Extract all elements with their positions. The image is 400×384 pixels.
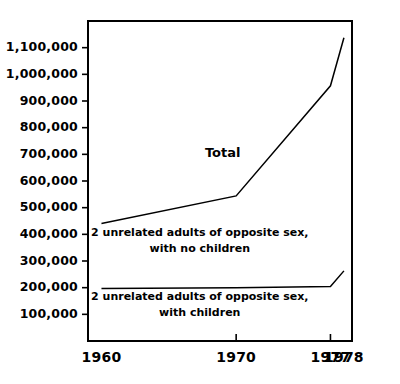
series-annotations: Total2 unrelated adults of opposite sex,…	[91, 145, 308, 319]
y-tick-label: 700,000	[20, 146, 78, 161]
y-tick-label: 1,000,000	[6, 66, 78, 81]
y-tick-label: 500,000	[20, 199, 78, 214]
annotation-with-children-line1: 2 unrelated adults of opposite sex,	[91, 290, 308, 303]
y-tick-label: 1,100,000	[6, 39, 78, 54]
x-tick-label: 1978	[324, 349, 364, 365]
y-tick-label: 100,000	[20, 306, 78, 321]
y-tick-label: 300,000	[20, 253, 78, 268]
y-tick-label: 800,000	[20, 119, 78, 134]
x-tick-label: 1960	[82, 349, 122, 365]
y-tick-label: 600,000	[20, 173, 78, 188]
annotation-with-children-line2: with children	[159, 306, 240, 319]
series-line	[101, 38, 343, 224]
y-tick-label: 200,000	[20, 279, 78, 294]
annotation-total: Total	[205, 145, 241, 160]
x-axis-tick-labels: 1960197019771978	[82, 349, 364, 365]
y-tick-label: 900,000	[20, 93, 78, 108]
series-line	[101, 271, 343, 289]
y-tick-label: 400,000	[20, 226, 78, 241]
y-axis-tick-labels: 100,000200,000300,000400,000500,000600,0…	[6, 39, 78, 321]
annotation-no-children-line2: with no children	[150, 242, 251, 255]
annotation-no-children-line1: 2 unrelated adults of opposite sex,	[91, 226, 308, 239]
x-axis-tick-marks	[236, 334, 330, 341]
chart-container: 100,000200,000300,000400,000500,000600,0…	[0, 0, 400, 384]
line-chart: 100,000200,000300,000400,000500,000600,0…	[0, 0, 400, 384]
x-tick-label: 1970	[216, 349, 256, 365]
